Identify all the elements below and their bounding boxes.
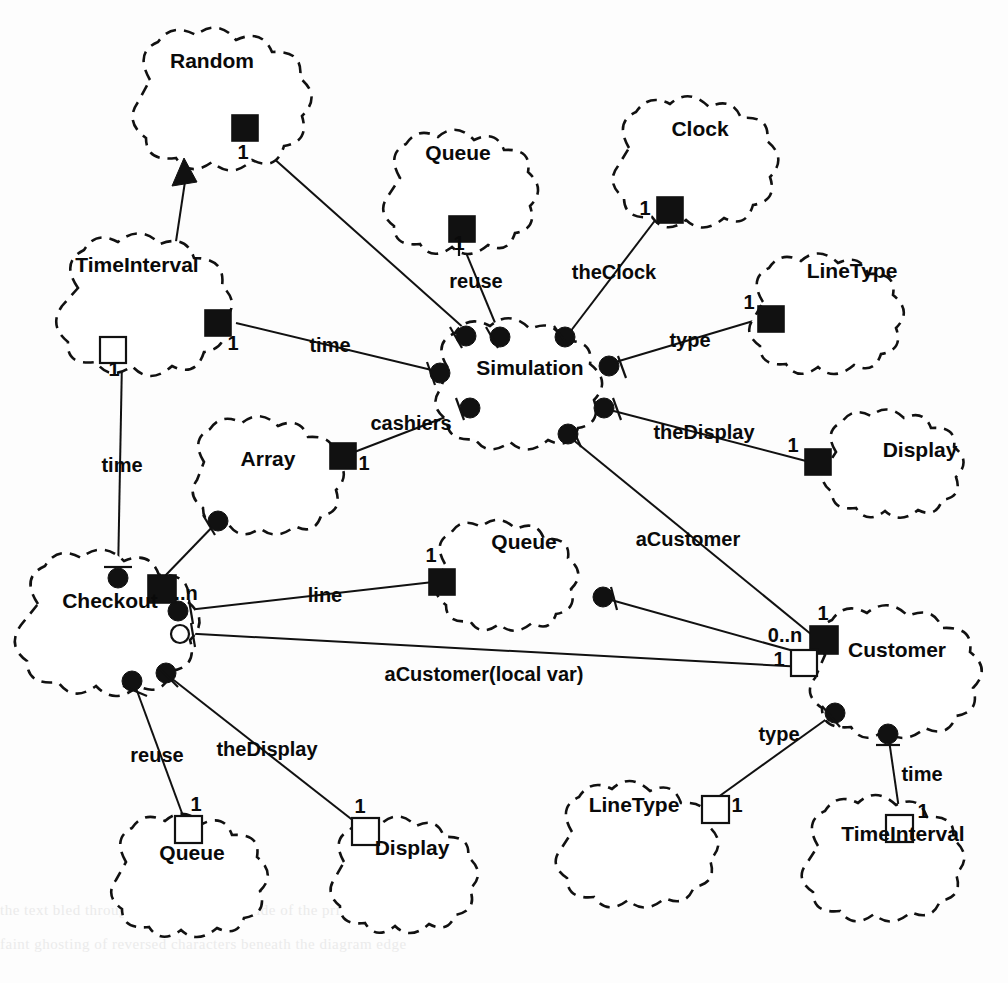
rolebox-customer-bot[interactable] (791, 650, 817, 676)
edge-label-thedisplay-right: theDisplay (653, 421, 755, 443)
cloud-display-right[interactable] (823, 409, 964, 517)
multiplicity-customer-one: 1 (773, 648, 784, 670)
edge-label-reuse-lower: reuse (130, 744, 183, 766)
port-customer-time[interactable] (878, 724, 898, 744)
rolebox-queue-bottomleft[interactable] (175, 816, 202, 843)
multiplicity-display-right: 1 (787, 434, 798, 456)
rolebox-clock[interactable] (657, 197, 683, 223)
multiplicity-linetype-right: 1 (743, 291, 754, 313)
port-checkout-acustomer[interactable] (171, 625, 189, 643)
rolebox-linetype-right[interactable] (758, 306, 784, 332)
multiplicity-display-bottomleft: 1 (354, 795, 365, 817)
rolebox-linetype-bottomright[interactable] (702, 796, 729, 823)
edge-label-thedisplay-bottom: theDisplay (216, 738, 318, 760)
multiplicity-timeinterval-top: 1 (227, 332, 238, 354)
multiplicity-array: 1 (358, 452, 369, 474)
class-label-simulation: Simulation (476, 356, 583, 379)
multiplicity-random: 1 (237, 141, 248, 163)
edge-label-type-upper: type (669, 329, 710, 351)
multiplicity-linetype-bottomright: 1 (731, 794, 742, 816)
link-timeinterval-inherits-random[interactable] (175, 175, 186, 248)
rolebox-display-right[interactable] (805, 449, 831, 475)
port-queue-mid-customer[interactable] (593, 587, 613, 607)
class-label-queue-mid: Queue (491, 530, 556, 553)
edge-label-time-left: time (101, 454, 142, 476)
edge-label-type-lower: type (758, 723, 799, 745)
rolebox-queue-mid[interactable] (429, 569, 455, 595)
class-label-random: Random (170, 49, 254, 72)
cloud-timeinterval-bottomright[interactable] (802, 795, 965, 922)
class-label-linetype-bottomright: LineType (589, 793, 680, 816)
class-label-linetype-right: LineType (807, 259, 898, 282)
class-clouds (15, 28, 982, 937)
port-checkout-thedisplay[interactable] (156, 663, 176, 683)
class-label-display-bottomleft: Display (375, 836, 450, 859)
link-acustomer-localvar[interactable] (180, 633, 805, 667)
port-simulation-thedisplay[interactable] (594, 398, 614, 418)
edge-label-reuse-upper: reuse (449, 270, 502, 292)
class-label-array: Array (241, 447, 296, 470)
edge-label-acustomer-localvar: aCustomer(local var) (385, 663, 584, 685)
multiplicity-timeinterval-bottom: 1 (108, 358, 119, 380)
edge-label-time-lower: time (901, 763, 942, 785)
edge-label-line: line (308, 584, 342, 606)
multiplicity-customer-zero-n: 0..n (768, 624, 802, 646)
edge-label-time-upper: time (309, 334, 350, 356)
rolebox-array[interactable] (330, 443, 356, 469)
port-checkout-line[interactable] (168, 601, 188, 621)
class-label-display-right: Display (883, 438, 958, 461)
cloud-clock[interactable] (613, 96, 779, 227)
port-simulation-reuse[interactable] (490, 327, 510, 347)
multiplicity-checkout: ..n (174, 582, 197, 604)
class-label-checkout: Checkout (62, 589, 158, 612)
class-label-queue-top: Queue (425, 141, 490, 164)
port-checkout-time[interactable] (108, 568, 128, 588)
rolebox-random[interactable] (232, 115, 258, 141)
diagram-canvas: the text bled through from the reverse s… (0, 0, 1008, 983)
class-label-queue-bottomleft: Queue (159, 841, 224, 864)
class-label-timeinterval-bottomright: TimeInterval (841, 822, 964, 845)
class-label-timeinterval1: TimeInterval (75, 253, 198, 276)
edge-label-theclock: theClock (572, 261, 657, 283)
uml-collaboration-diagram: Simulation --> Simulation --> Simulation… (0, 0, 1008, 983)
class-label-customer: Customer (848, 638, 946, 661)
edge-label-acustomer: aCustomer (636, 528, 741, 550)
class-label-clock: Clock (671, 117, 729, 140)
multiplicity-clock: 1 (639, 197, 650, 219)
multiplicity-timeinterval-bottomright: 1 (917, 800, 928, 822)
multiplicity-queue-mid: 1 (425, 544, 436, 566)
multiplicity-queue-bottomleft: 1 (190, 793, 201, 815)
edge-label-cashiers: cashiers (370, 412, 451, 434)
port-simulation-type[interactable] (599, 356, 619, 376)
multiplicity-queue-top: 1 (453, 232, 464, 254)
multiplicity-customer-top: 1 (817, 602, 828, 624)
